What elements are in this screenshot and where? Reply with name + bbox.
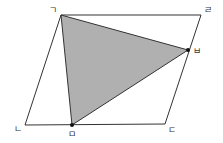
label-vertex-d: ㄷ (168, 125, 176, 135)
point-m (70, 123, 74, 127)
label-point-b: ㅂ (193, 46, 201, 56)
geometry-diagram: ㄱ ㄹ ㄷ ㄴ ㅂ ㅁ (0, 0, 223, 143)
shaded-triangle (61, 15, 188, 125)
label-vertex-g: ㄱ (49, 5, 57, 15)
label-vertex-l: ㄹ (204, 5, 212, 15)
point-b (186, 48, 190, 52)
label-point-m: ㅁ (68, 129, 76, 139)
label-vertex-n: ㄴ (14, 124, 22, 134)
